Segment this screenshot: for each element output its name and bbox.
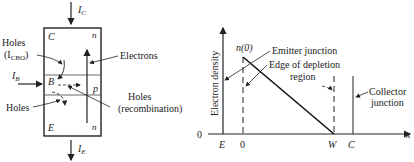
emitter-type-label: n [92, 122, 97, 132]
tick-e: E [218, 139, 225, 150]
holes-recombination-label-2: (recombination) [118, 103, 182, 115]
tick-w: W [328, 139, 338, 150]
collector-type-label: n [92, 30, 97, 40]
transistor-diagram: IC C n B p E n Electrons Holes (ICBO) IB… [2, 2, 182, 160]
electrons-label: Electrons [120, 50, 158, 61]
emitter-region-label: E [47, 122, 54, 133]
holes-icbo-arrow [58, 60, 64, 79]
base-region-label: B [48, 76, 54, 87]
figure-canvas: IC C n B p E n Electrons Holes (ICBO) IB… [0, 0, 414, 162]
holes-pointer [33, 100, 60, 107]
collector-junction-label-1: Collector [369, 86, 407, 97]
x-axis-label: x [405, 129, 411, 140]
electron-density-plot: Electron density x 0 E 0 W C n(0) Emitte… [197, 28, 411, 150]
collector-current-label: IC [77, 4, 86, 17]
base-current-label: IB [11, 70, 20, 83]
collector-junction-pointer [356, 92, 368, 97]
tick-c: C [348, 139, 355, 150]
n0-label: n(0) [236, 42, 253, 54]
holes-icbo-label-1: Holes [2, 37, 25, 48]
origin-label: 0 [197, 129, 202, 140]
base-type-label: p [92, 83, 98, 94]
holes-recombination-label-1: Holes [128, 91, 151, 102]
collector-region-label: C [48, 31, 55, 42]
tick-zero: 0 [240, 139, 245, 150]
emitter-holes-arrow [52, 92, 65, 105]
edge-depletion-label-1: Edge of depletion [269, 59, 340, 70]
edge-depletion-pointer-right [322, 86, 332, 90]
holes-icbo-label-2: (ICBO) [4, 49, 28, 62]
collector-junction-label-2: junction [370, 97, 404, 108]
emitter-junction-pointer [225, 51, 270, 80]
holes-icbo-pointer [37, 55, 62, 64]
emitter-current-label: IE [77, 143, 86, 156]
y-axis-label: Electron density [209, 51, 220, 116]
electrons-pointer [90, 56, 118, 63]
edge-depletion-label-2: region [290, 71, 316, 82]
emitter-junction-label: Emitter junction [272, 45, 337, 56]
holes-label: Holes [6, 102, 29, 113]
holes-recombination-pointer [68, 86, 110, 107]
